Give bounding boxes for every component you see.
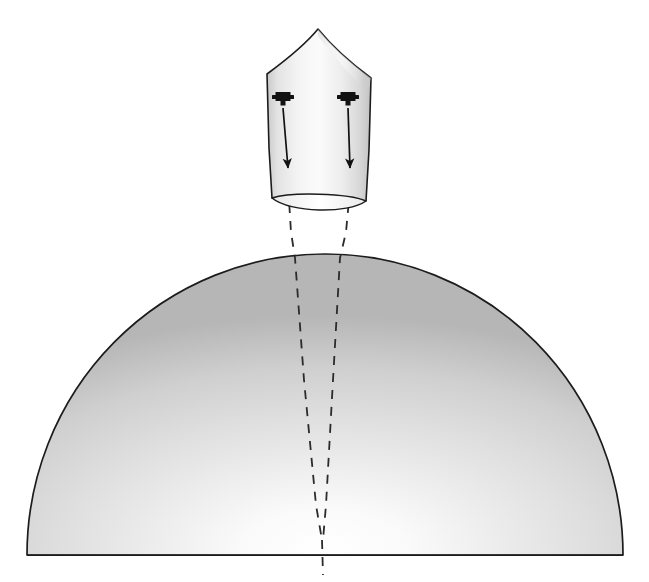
spacecraft-capsule-group <box>267 29 371 210</box>
technical-diagram-canvas <box>0 0 649 582</box>
emitter-right-crossbar <box>337 95 359 99</box>
figure-root <box>0 0 649 582</box>
emitter-left-stem <box>281 100 286 106</box>
sight-line-merged <box>322 540 323 575</box>
emitter-right-stem <box>346 100 351 106</box>
capsule-hull <box>267 29 371 201</box>
emitter-left-crossbar <box>272 95 294 99</box>
capsule-base-aperture <box>272 194 366 210</box>
